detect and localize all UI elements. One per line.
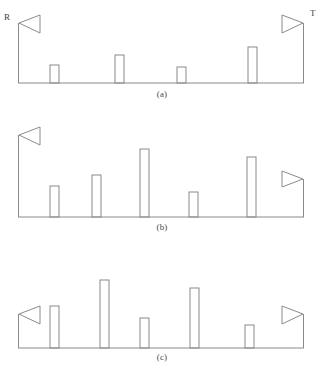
panel-b: (b) — [0, 124, 324, 236]
impulse-bar — [50, 186, 59, 217]
impulse-bar — [189, 192, 198, 217]
triangle-left-icon — [19, 306, 40, 324]
triangle-left-icon — [19, 15, 40, 33]
triangle-right-icon — [282, 171, 303, 187]
impulse-bar — [140, 149, 149, 217]
impulse-bar — [190, 288, 199, 348]
impulse-bar — [140, 318, 149, 348]
figure-root: R T (a) (b) — [0, 0, 324, 381]
impulse-bar — [50, 306, 59, 348]
panel-a-caption: (a) — [0, 89, 324, 99]
panel-b-plot — [0, 124, 324, 236]
impulse-bar — [50, 65, 59, 83]
impulse-bar — [92, 175, 101, 217]
impulse-bar — [100, 280, 109, 348]
transmitter-label: T — [310, 8, 316, 18]
impulse-bar — [177, 67, 186, 83]
panel-c-caption: (c) — [0, 352, 324, 362]
panel-c: (c) — [0, 270, 324, 370]
panel-b-caption: (b) — [0, 222, 324, 232]
impulse-bar — [115, 55, 124, 83]
triangle-right-icon — [282, 15, 303, 33]
triangle-right-icon — [282, 306, 303, 324]
impulse-bar — [248, 47, 257, 83]
receiver-label: R — [4, 12, 10, 22]
panel-a: R T (a) — [0, 0, 324, 110]
triangle-left-icon — [19, 127, 40, 145]
impulse-bar — [247, 157, 256, 217]
impulse-bar — [245, 325, 254, 348]
